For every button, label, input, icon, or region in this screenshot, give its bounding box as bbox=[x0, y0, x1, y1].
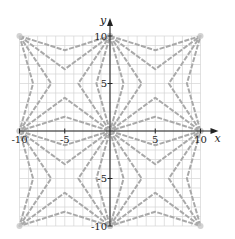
vertex-point bbox=[198, 33, 204, 39]
x-tick-label: -5 bbox=[60, 134, 70, 145]
y-tick-label: 5 bbox=[101, 78, 107, 89]
x-tick-label: -10 bbox=[11, 134, 27, 145]
y-axis-arrow-icon bbox=[107, 18, 113, 26]
x-axis-label: x bbox=[215, 132, 222, 145]
coordinate-plane-figure: x y -10-5510105-5-10 bbox=[0, 0, 235, 239]
vertex-point bbox=[17, 223, 23, 229]
y-axis-label: y bbox=[99, 14, 107, 27]
vertex-point bbox=[198, 223, 204, 229]
y-tick-label: 10 bbox=[94, 31, 107, 42]
y-tick-label: -10 bbox=[91, 221, 107, 232]
x-tick-label: 10 bbox=[194, 134, 207, 145]
y-tick-label: -5 bbox=[97, 173, 107, 184]
vertex-point bbox=[17, 33, 23, 39]
x-tick-label: 5 bbox=[152, 134, 158, 145]
